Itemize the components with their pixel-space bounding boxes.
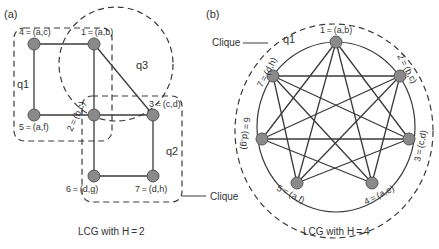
node-3 xyxy=(403,133,415,145)
panel-a: (a) 1 = xyxy=(4,7,239,237)
node-1-label: 1 = (a,b) xyxy=(320,25,352,35)
node-6-label: 6 = (d,g) xyxy=(239,117,252,150)
lcg-diagram: (a) 1 = xyxy=(0,0,439,249)
edge-1-3 xyxy=(94,44,153,115)
node-6-label: 6 = (d,g) xyxy=(66,184,98,194)
node-4 xyxy=(366,177,378,189)
group-q1-label-b: q1 xyxy=(283,33,295,45)
panel-b-caption: LCG with H = 4 xyxy=(303,226,370,237)
edge-3-5 xyxy=(297,139,409,183)
edge-3-7 xyxy=(273,76,409,139)
group-q3-label: q3 xyxy=(136,59,148,71)
edge-5-7 xyxy=(273,76,297,183)
panel-b-nodes xyxy=(256,36,415,189)
node-6 xyxy=(88,170,100,182)
edge-2-6 xyxy=(262,76,400,139)
group-q1-label: q1 xyxy=(17,78,29,90)
node-2-label: 2 = (b,c) xyxy=(65,100,88,133)
node-7-label: 7 = (d,h) xyxy=(135,184,167,194)
node-1 xyxy=(330,36,342,48)
node-7 xyxy=(147,170,159,182)
node-3-label: 3 = (c,d) xyxy=(149,99,181,109)
node-1 xyxy=(88,38,100,50)
panel-b-label: (b) xyxy=(206,8,219,20)
clique-label-b: Clique xyxy=(212,37,241,48)
node-4-label: 4 = (a,c) xyxy=(19,27,51,37)
node-5 xyxy=(291,177,303,189)
node-4 xyxy=(28,38,40,50)
panel-b: (b) xyxy=(206,8,433,238)
node-2 xyxy=(88,109,100,121)
node-5-label: 5 = (a,f) xyxy=(19,122,49,132)
node-3 xyxy=(147,109,159,121)
edge-2-4 xyxy=(372,76,400,183)
panel-a-label: (a) xyxy=(4,8,17,20)
node-1-label: 1 = (a,b) xyxy=(81,27,113,37)
panel-a-caption: LCG with H = 2 xyxy=(78,226,145,237)
group-q2-label: q2 xyxy=(166,145,178,157)
node-5 xyxy=(28,109,40,121)
edge-1-6 xyxy=(262,42,336,139)
edge-1-4 xyxy=(336,42,372,183)
edge-4-6 xyxy=(262,139,372,183)
node-6 xyxy=(256,133,268,145)
clique-label-a: Clique xyxy=(210,191,239,202)
